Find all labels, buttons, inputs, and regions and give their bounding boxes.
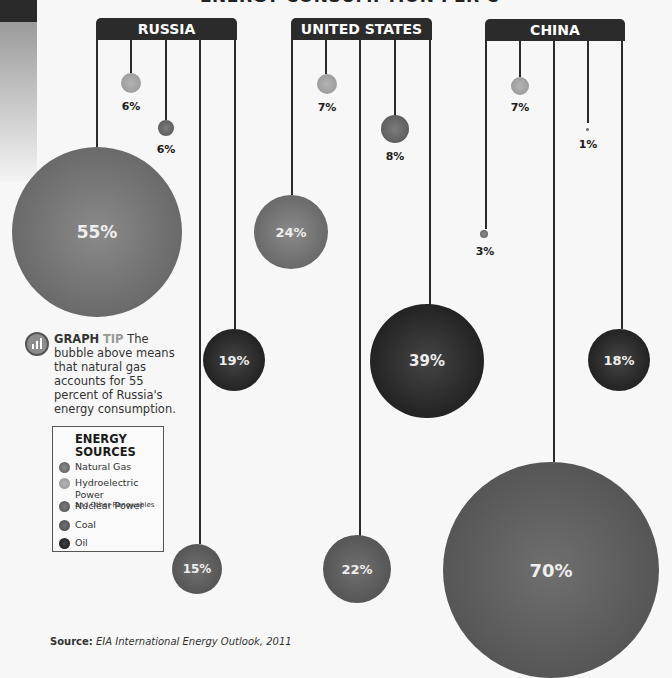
us-oil-bubble: 39% — [370, 304, 484, 418]
us-oil-line — [429, 40, 431, 305]
us-oil-value: 39% — [409, 352, 445, 370]
graph-tip-text: GRAPH TIP The bubble above means that na… — [54, 332, 190, 416]
russia-header: RUSSIA — [96, 18, 237, 40]
natural-gas-swatch-icon — [59, 462, 70, 473]
united-states-header: UNITED STATES — [291, 18, 432, 40]
legend-item-oil: Oil — [59, 537, 88, 549]
legend-label: Coal — [75, 519, 96, 531]
legend-item-coal: Coal — [59, 519, 96, 531]
china-coal-line — [553, 41, 555, 462]
china-gas-line — [485, 41, 487, 229]
source-label: Source: — [50, 636, 93, 647]
russia-coal-value: 15% — [183, 562, 212, 576]
china-nuclear-value: 1% — [579, 138, 598, 151]
legend-label: Nuclear Power — [75, 500, 143, 512]
legend-label-main: Hydroelectric Power — [75, 477, 138, 500]
china-hydro-bubble — [511, 77, 529, 95]
russia-coal-line — [199, 40, 201, 544]
page-edge-gradient — [0, 22, 37, 182]
graph-tip-label-graph: GRAPH — [54, 332, 99, 346]
russia-coal-bubble: 15% — [172, 544, 222, 594]
russia-hydro-bubble — [121, 73, 141, 93]
us-hydro-line — [325, 40, 327, 74]
china-nuclear-bubble — [586, 128, 589, 131]
us-coal-bubble: 22% — [323, 535, 391, 603]
china-coal-bubble: 70% — [443, 462, 659, 678]
source-note: Source: EIA International Energy Outlook… — [50, 636, 292, 647]
russia-hydro-line — [130, 40, 132, 73]
bar-chart-icon — [25, 332, 49, 356]
legend-label: Oil — [75, 537, 88, 549]
coal-swatch-icon — [59, 520, 70, 531]
russia-nuclear-line — [165, 40, 167, 120]
source-text: EIA International Energy Outlook, 2011 — [96, 636, 292, 647]
china-oil-line — [621, 41, 623, 329]
us-hydro-value: 7% — [318, 101, 337, 114]
russia-natural-gas-bubble: 55% — [12, 147, 182, 317]
china-hydro-value: 7% — [511, 101, 530, 114]
china-natural-gas-bubble — [480, 230, 488, 238]
russia-hydro-value: 6% — [122, 100, 141, 113]
us-natural-gas-bubble: 24% — [254, 195, 328, 269]
us-hydro-bubble — [317, 74, 337, 94]
us-nuclear-value: 8% — [386, 150, 405, 163]
us-coal-line — [359, 40, 361, 536]
legend-title-line2: SOURCES — [75, 446, 136, 459]
china-oil-value: 18% — [603, 353, 634, 368]
china-oil-bubble: 18% — [588, 329, 650, 391]
russia-nuclear-bubble — [158, 120, 174, 136]
legend-title: ENERGY SOURCES — [75, 433, 136, 459]
russia-nuclear-value: 6% — [157, 143, 176, 156]
china-coal-value: 70% — [529, 560, 572, 581]
nuclear-swatch-icon — [59, 501, 70, 512]
us-nuclear-bubble — [381, 115, 409, 143]
us-natural-gas-value: 24% — [275, 225, 306, 240]
china-hydro-line — [519, 41, 521, 77]
legend-box: ENERGY SOURCES Natural Gas Hydroelectric… — [52, 426, 164, 552]
us-nuclear-line — [394, 40, 396, 116]
russia-oil-bubble: 19% — [203, 329, 265, 391]
page-edge-dark-tab — [0, 0, 37, 22]
russia-gas-line — [96, 40, 98, 148]
oil-swatch-icon — [59, 538, 70, 549]
us-coal-value: 22% — [341, 562, 372, 577]
china-nuclear-line — [587, 41, 589, 123]
china-header: CHINA — [485, 19, 625, 41]
legend-item-natural-gas: Natural Gas — [59, 461, 131, 473]
russia-natural-gas-value: 55% — [77, 222, 118, 242]
legend-label: Natural Gas — [75, 461, 131, 473]
russia-oil-value: 19% — [218, 353, 249, 368]
hydro-swatch-icon — [59, 478, 70, 489]
us-gas-line — [291, 40, 293, 195]
russia-oil-line — [234, 40, 236, 329]
china-natural-gas-value: 3% — [476, 245, 495, 258]
legend-item-nuclear: Nuclear Power — [59, 500, 143, 512]
graph-tip-label-tip: TIP — [103, 332, 124, 346]
chart-title: ENERGY CONSUMPTION PER COUNTRY — [200, 0, 500, 6]
